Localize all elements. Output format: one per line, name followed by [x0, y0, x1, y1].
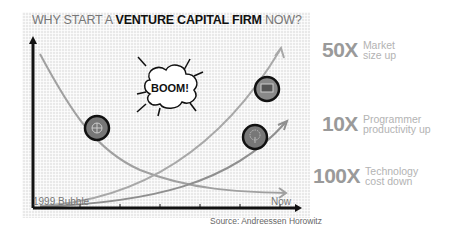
- globe-icon: [85, 116, 109, 140]
- stat-programmer-productivity: 10X Programmerproductivity up: [322, 112, 431, 136]
- stat-technology-cost: 100X Technologycost down: [313, 164, 418, 188]
- stat-multiplier: 100X: [313, 164, 360, 188]
- stat-market-size: 50X Marketsize up: [322, 38, 396, 62]
- stat-description: Technologycost down: [365, 166, 418, 186]
- monitor-icon: [255, 77, 279, 101]
- stat-multiplier: 10X: [322, 112, 358, 136]
- y-axis-arrow-icon: [29, 36, 37, 44]
- source-caption: Source: Andreessen Horowitz: [210, 216, 322, 226]
- boom-label: BOOM!: [151, 82, 189, 94]
- network-icon: [243, 125, 267, 149]
- x-label-end: Now: [271, 196, 291, 207]
- x-axis-arrow-icon: [295, 204, 302, 212]
- x-label-start: 1999 Bubble: [33, 196, 89, 207]
- stat-description: Programmerproductivity up: [363, 114, 431, 134]
- stat-description: Marketsize up: [363, 40, 396, 60]
- stat-multiplier: 50X: [322, 38, 358, 62]
